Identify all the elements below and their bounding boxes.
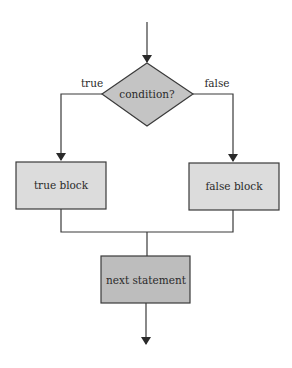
false-branch-label: false — [204, 77, 229, 89]
condition-label: condition? — [119, 88, 175, 100]
false-block-label: false block — [205, 180, 263, 192]
false-branch-arrow — [193, 94, 233, 161]
condition-node: condition? — [102, 63, 193, 126]
true-branch-arrow — [61, 94, 102, 160]
false-block-node: false block — [189, 163, 279, 210]
merge-line — [61, 209, 233, 232]
true-block-node: true block — [16, 162, 106, 209]
flowchart-canvas: condition? true false true block false b… — [0, 0, 292, 368]
next-statement-node: next statement — [101, 256, 190, 303]
true-block-label: true block — [34, 179, 89, 191]
true-branch-label: true — [81, 77, 103, 89]
next-statement-label: next statement — [106, 274, 187, 286]
